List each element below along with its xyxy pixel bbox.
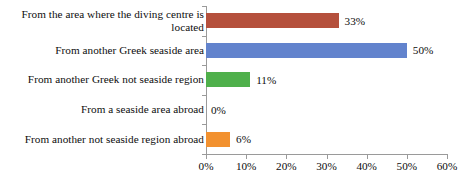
x-tick-label: 30% (307, 160, 347, 172)
x-tick-label: 0% (186, 160, 226, 172)
category-tick (202, 36, 206, 37)
value-tick (367, 155, 368, 159)
bar-row: From a seaside area abroad0% (0, 95, 466, 125)
bar-row: From another Greek seaside area50% (0, 36, 466, 66)
bar-row: From another Greek not seaside region11% (0, 65, 466, 95)
category-label-line: From another Greek not seaside region (8, 73, 204, 86)
bar-track: 6% (206, 132, 466, 147)
category-label: From another not seaside region abroad (8, 133, 204, 146)
bar-rows: From the area where the diving centre is… (0, 6, 466, 154)
category-label: From a seaside area abroad (8, 103, 204, 116)
x-tick-label: 60% (427, 160, 466, 172)
category-label-line: located (8, 21, 204, 34)
bar-row: From another not seaside region abroad6% (0, 124, 466, 154)
category-label: From another Greek not seaside region (8, 73, 204, 86)
category-label: From another Greek seaside area (8, 44, 204, 57)
bar (206, 13, 339, 28)
value-tick (327, 155, 328, 159)
category-tick (202, 65, 206, 66)
value-tick (286, 155, 287, 159)
category-label-line: From a seaside area abroad (8, 103, 204, 116)
category-label: From the area where the diving centre is… (8, 8, 204, 34)
bar (206, 72, 250, 87)
bar-track: 11% (206, 72, 466, 87)
bar-value-label: 6% (236, 133, 251, 145)
value-tick (447, 155, 448, 159)
category-tick (202, 95, 206, 96)
bar-chart: From the area where the diving centre is… (0, 0, 466, 177)
bar-value-label: 50% (413, 44, 434, 56)
bar-value-label: 11% (256, 74, 276, 86)
value-tick (407, 155, 408, 159)
x-tick-label: 50% (387, 160, 427, 172)
value-tick (246, 155, 247, 159)
value-tick (206, 155, 207, 159)
bar-track: 33% (206, 13, 466, 28)
bar-value-label: 33% (345, 15, 366, 27)
category-tick (202, 6, 206, 7)
bar (206, 43, 407, 58)
category-tick (202, 124, 206, 125)
bar-track: 0% (206, 102, 466, 117)
x-tick-label: 40% (347, 160, 387, 172)
category-label-line: From another Greek seaside area (8, 44, 204, 57)
category-label-line: From the area where the diving centre is (8, 8, 204, 21)
x-tick-label: 10% (226, 160, 266, 172)
bar (206, 132, 230, 147)
x-tick-label: 20% (266, 160, 306, 172)
bar-row: From the area where the diving centre is… (0, 6, 466, 36)
bar-track: 50% (206, 43, 466, 58)
category-label-line: From another not seaside region abroad (8, 133, 204, 146)
bar-value-label: 0% (211, 104, 226, 116)
